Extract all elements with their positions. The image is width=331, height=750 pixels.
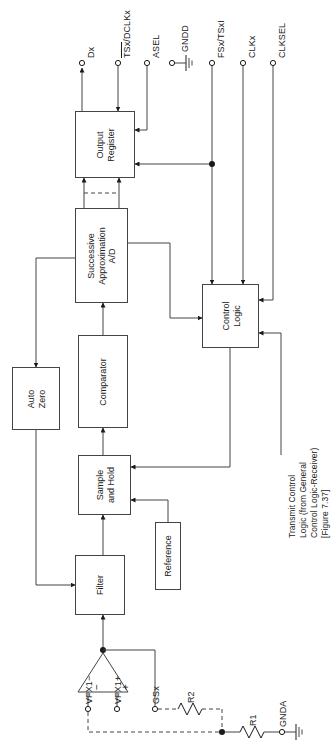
wire-ad-to-auto-zero <box>36 258 75 367</box>
wire-transmit-control <box>259 333 281 440</box>
pin-label-tsx-dclkx: TSx/DCLKx <box>122 10 133 58</box>
annotation-line-3: Control Logic-Receiver) <box>309 448 320 538</box>
terminal-clksel <box>270 60 275 65</box>
annotation-line-4: [Figure 7.37] <box>320 490 331 538</box>
annotation-line-2: Logic (from General <box>298 462 309 538</box>
block-comparator: Comparator <box>78 335 128 428</box>
block-filter: Filter <box>75 555 125 615</box>
wire-reference-to-sh <box>131 500 168 522</box>
block-comparator-label: Comparator <box>98 358 109 406</box>
terminal-fsx-tsxi <box>209 60 214 65</box>
annotation-line-1: Transmit Control <box>287 475 298 538</box>
wire-asel <box>135 66 147 130</box>
junction-dot-r1-r2 <box>219 729 225 735</box>
block-filter-label: Filter <box>95 575 106 595</box>
block-successive-approximation-ad: Successive Approximation A/D <box>75 208 128 303</box>
block-sample-and-hold: Sample and Hold <box>78 455 131 515</box>
pin-label-gsx: GSx <box>151 686 162 704</box>
block-sample-and-hold-label: Sample and Hold <box>94 467 115 503</box>
wire-auto-zero-to-filter <box>36 430 75 585</box>
terminal-dx <box>79 60 84 65</box>
block-output-register-label: Output Register <box>95 128 116 162</box>
terminal-clkx <box>240 60 245 65</box>
terminal-asel <box>144 60 149 65</box>
resistor-r1 <box>240 726 264 738</box>
junction-dot-fsx <box>209 161 215 167</box>
pin-label-dclkx-rest: /DCLKx <box>122 10 132 42</box>
wire-ad-to-control-logic <box>128 243 202 318</box>
block-reference-label: Reference <box>163 535 174 577</box>
block-control-logic-label: Control Logic <box>220 301 241 330</box>
wire-clksel <box>259 66 273 300</box>
opamp-minus-mark: − <box>92 684 103 690</box>
block-successive-approximation-ad-label: Successive Approximation A/D <box>86 227 118 285</box>
terminal-vfx1-plus <box>114 706 119 711</box>
wire-ext-feedback <box>88 712 222 732</box>
terminal-gndd <box>169 60 174 65</box>
terminal-gnda <box>279 729 284 734</box>
pin-label-clksel: CLKSEL <box>277 23 288 58</box>
pin-label-gndd: GNDD <box>180 25 191 52</box>
pin-label-fsx-tsxi: FSx/TSxI <box>216 20 227 58</box>
terminal-gsx <box>152 706 157 711</box>
block-auto-zero: Auto Zero <box>12 367 60 430</box>
pin-label-asel: ASEL <box>151 35 162 58</box>
block-control-logic: Control Logic <box>202 284 259 348</box>
pin-label-clkx: CLKx <box>247 36 258 58</box>
terminal-tsx-dclkx <box>115 60 120 65</box>
block-auto-zero-label: Auto Zero <box>26 389 47 408</box>
opamp-plus-mark: + <box>121 684 132 690</box>
wire-control-logic-to-sh <box>131 348 230 467</box>
block-output-register: Output Register <box>75 111 135 178</box>
pin-label-dx: Dx <box>86 47 97 58</box>
component-label-r1: R1 <box>248 714 259 726</box>
pin-label-gnda: GNDA <box>278 701 289 727</box>
component-label-r2: R2 <box>186 691 197 703</box>
resistor-r2 <box>178 703 202 715</box>
pin-label-tsx-overlined: TSx <box>121 42 132 58</box>
terminal-vfx1-minus <box>85 706 90 711</box>
block-reference: Reference <box>155 522 181 590</box>
